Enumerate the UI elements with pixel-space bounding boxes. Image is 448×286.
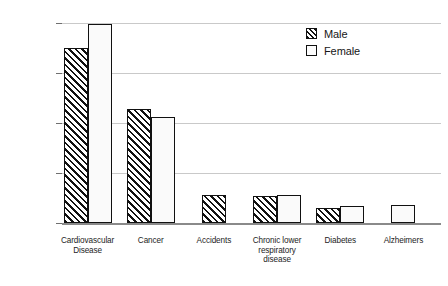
gridline: [62, 123, 441, 124]
legend-swatch-female-icon: [306, 45, 317, 56]
bar-female[interactable]: [88, 24, 112, 223]
bar-female[interactable]: [151, 117, 175, 223]
legend-item-female[interactable]: Female: [306, 43, 426, 58]
x-axis-category-label: Accidents: [182, 236, 245, 246]
bar-male[interactable]: [64, 48, 88, 223]
x-axis-category-label: CardiovascularDisease: [56, 236, 119, 255]
gridline: [62, 23, 441, 24]
x-axis-category-label: Chronic lowerrespiratorydisease: [246, 236, 309, 265]
legend-item-male[interactable]: Male: [306, 26, 426, 41]
gridline: [62, 73, 441, 74]
bar-male[interactable]: [316, 208, 340, 223]
gridline: [62, 173, 441, 174]
bar-chart: 0125,000250,000375,000500,000 Cardiovasc…: [0, 0, 448, 286]
chart-legend: Male Female: [306, 26, 426, 60]
y-axis-tick: [56, 73, 62, 74]
bar-male[interactable]: [253, 196, 277, 223]
bar-female[interactable]: [277, 195, 301, 223]
bar-male[interactable]: [202, 195, 226, 223]
y-axis-tick: [56, 123, 62, 124]
x-axis-category-label: Alzheimers: [372, 236, 435, 246]
axis-baseline: [62, 223, 441, 225]
legend-label-male: Male: [324, 28, 347, 40]
bar-female[interactable]: [391, 205, 415, 223]
bar-male[interactable]: [127, 109, 151, 223]
x-axis-category-label: Diabetes: [309, 236, 372, 246]
y-axis-tick: [56, 173, 62, 174]
legend-label-female: Female: [324, 45, 360, 57]
y-axis-tick: [56, 23, 62, 24]
bar-female[interactable]: [340, 206, 364, 223]
legend-swatch-male-icon: [306, 28, 317, 39]
y-axis-tick: [56, 223, 62, 224]
x-axis-category-label: Cancer: [119, 236, 182, 246]
